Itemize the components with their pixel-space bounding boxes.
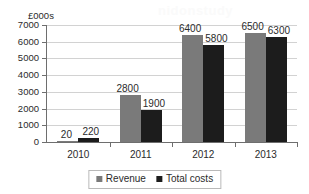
bar-value-label: 6300 [268,25,290,36]
x-axis-tick-label-2010: 2010 [67,149,89,161]
bar-value-label: 6500 [241,21,263,32]
bar-2011-total-costs: 1900 [141,110,162,142]
y-axis-tick-label: 1000 [18,120,39,130]
x-axis-tick [110,142,111,147]
bar-value-label: 1900 [143,98,165,109]
y-axis-tick [42,109,47,110]
y-axis-tick-label: 6000 [18,37,39,47]
x-axis-tick-label-2013: 2013 [255,149,277,161]
bar-chart: nidonstudy £000s 01000200030004000500060… [0,0,309,194]
y-axis-tick-label: 4000 [18,70,39,80]
legend-item-total-costs[interactable]: Total costs [156,173,213,185]
y-axis-tick-label: 5000 [18,53,39,63]
bar-value-label: 2800 [116,83,138,94]
bar-2013-total-costs: 6300 [266,37,287,142]
y-axis-tick-label: 2000 [18,104,39,114]
bar-2010-total-costs: 220 [78,138,99,142]
y-axis-tick [42,75,47,76]
x-axis-tick [297,142,298,147]
y-axis-tick [42,58,47,59]
x-axis-tick-label-2012: 2012 [192,149,214,161]
x-axis-tick [235,142,236,147]
bar-2013-revenue: 6500 [245,33,266,142]
x-axis-tick-label-2011: 2011 [130,149,152,161]
x-axis-tick [172,142,173,147]
y-axis-tick [42,142,47,143]
y-axis-tick-label: 0 [34,137,39,147]
y-axis-tick-label: 7000 [18,20,39,30]
bar-value-label: 5800 [205,33,227,44]
legend-label: Total costs [166,173,213,185]
bar-value-label: 20 [61,129,72,140]
bar-2012-revenue: 6400 [182,35,203,142]
y-axis-tick-label: 3000 [18,87,39,97]
y-axis-tick [42,25,47,26]
legend-label: Revenue [106,173,146,185]
bar-value-label: 6400 [179,23,201,34]
square-gray-icon [96,176,102,182]
y-axis-tick [42,92,47,93]
bar-2011-revenue: 2800 [120,95,141,142]
chart-legend: RevenueTotal costs [88,170,221,189]
bar-2010-revenue: 20 [57,141,78,142]
bar-2012-total-costs: 5800 [203,45,224,142]
watermark-artifact: nidonstudy [158,3,303,18]
legend-item-revenue[interactable]: Revenue [96,173,146,185]
bar-value-label: 220 [82,126,99,137]
plot-area: 0100020003000400050006000700020220201028… [46,25,297,143]
square-black-icon [156,176,162,182]
y-axis-tick [42,42,47,43]
y-axis-tick [42,125,47,126]
